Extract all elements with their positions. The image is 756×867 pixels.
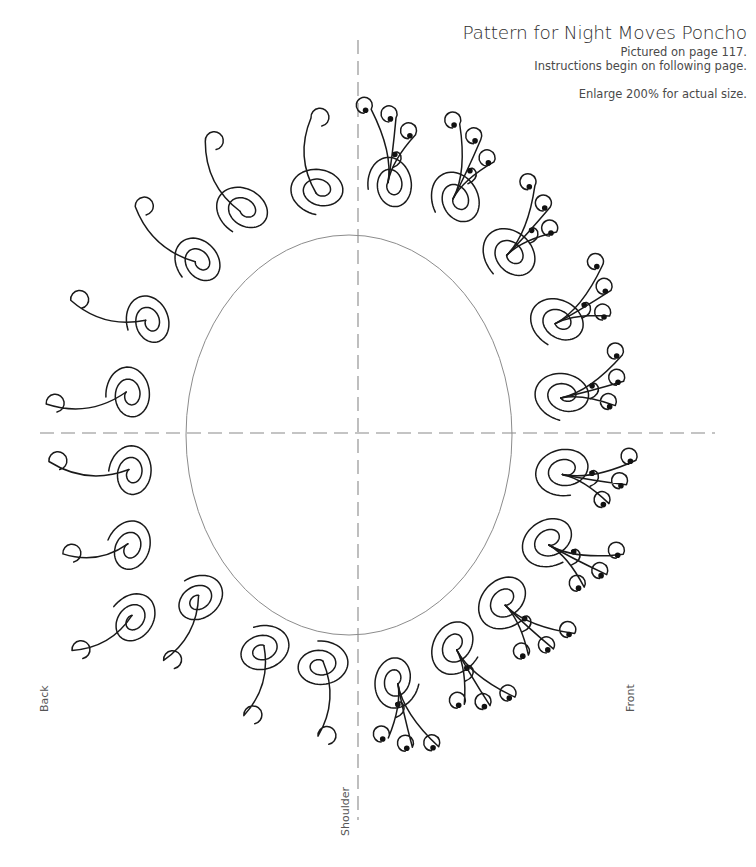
plume-stroke	[505, 605, 529, 659]
swirl-spiral	[291, 169, 343, 214]
swirl-spiral	[432, 172, 480, 221]
curl-dot	[628, 458, 634, 464]
back-swirl	[46, 367, 149, 417]
swirl-tail	[71, 290, 146, 322]
back-swirl	[49, 446, 151, 495]
curl-dot	[472, 138, 478, 144]
back-swirl	[241, 626, 289, 724]
center-guide-lines	[40, 40, 715, 820]
front-plume-swirl	[432, 622, 516, 710]
swirl-tail	[135, 197, 195, 262]
back-swirl	[164, 575, 223, 668]
back-swirl	[205, 132, 267, 232]
curl-dot	[601, 314, 607, 320]
curl-dot	[542, 205, 548, 211]
swirl-tail	[205, 132, 240, 212]
curl-dot	[618, 483, 624, 489]
swirl-spiral	[536, 449, 588, 495]
instructions-note: Instructions begin on following page.	[462, 59, 747, 73]
plume-stroke	[356, 97, 389, 182]
curl-dot	[520, 653, 526, 659]
front-label: Front	[624, 684, 637, 712]
swirl-tail	[63, 544, 128, 562]
curl-dot	[380, 736, 386, 742]
curl-dot	[615, 379, 621, 385]
curl-dot	[456, 703, 462, 709]
front-plume-swirl	[523, 519, 625, 592]
front-plume-swirl	[536, 448, 637, 507]
front-plume-swirl	[356, 97, 416, 206]
poncho-pattern-diagram	[0, 0, 756, 867]
neckline-ellipse	[186, 235, 512, 635]
plume-stroke	[505, 605, 576, 637]
swirl-spiral	[109, 446, 151, 495]
curl-dot	[545, 647, 551, 653]
front-plume-swirl	[531, 254, 612, 345]
front-plume-swirl	[479, 577, 576, 659]
curl-dot	[482, 704, 488, 710]
swirl-tail	[46, 392, 126, 412]
swirl-spiral	[479, 577, 526, 629]
swirl-spiral	[114, 594, 155, 641]
front-plume-swirl	[535, 343, 625, 420]
back-swirl	[72, 594, 155, 659]
front-plume-motifs	[356, 97, 637, 751]
curl-dot	[603, 289, 609, 295]
back-swirl-motifs	[46, 108, 348, 744]
swirl-tail	[318, 661, 336, 744]
swirl-spiral	[523, 519, 572, 567]
curl-dot	[506, 695, 512, 701]
swirl-spiral	[375, 658, 419, 708]
pattern-title: Pattern for Night Moves Poncho	[462, 22, 747, 45]
curl-dot	[614, 353, 620, 359]
swirl-tail	[304, 108, 329, 193]
back-swirl	[71, 290, 169, 342]
swirl-spiral	[175, 238, 220, 280]
front-plume-swirl	[373, 658, 439, 751]
swirl-spiral	[531, 299, 583, 345]
plume-stroke	[373, 684, 398, 742]
back-swirl	[291, 108, 343, 214]
curl-dot	[407, 133, 413, 139]
back-swirl	[135, 197, 220, 280]
enlarge-note: Enlarge 200% for actual size.	[462, 87, 747, 101]
curl-dot	[486, 160, 492, 166]
curl-dot	[388, 116, 394, 122]
pattern-header: Pattern for Night Moves Poncho Pictured …	[462, 22, 747, 101]
curl-dot	[615, 552, 621, 558]
curl-dot	[404, 745, 410, 751]
curl-dot	[527, 184, 533, 190]
swirl-spiral	[179, 575, 223, 619]
plume-stroke	[507, 220, 558, 255]
curl-dot	[430, 745, 436, 751]
swirl-spiral	[126, 296, 168, 342]
swirl-spiral	[108, 521, 150, 569]
swirl-tail	[72, 615, 132, 658]
curl-dot	[594, 264, 600, 270]
curl-dot	[451, 122, 457, 128]
curl-dot	[363, 107, 369, 113]
swirl-spiral	[106, 367, 149, 417]
back-swirl	[298, 641, 348, 744]
curl-dot	[576, 585, 582, 591]
pictured-note: Pictured on page 117.	[462, 45, 747, 59]
curl-dot	[566, 632, 572, 638]
curl-dot	[607, 404, 613, 410]
swirl-spiral	[217, 187, 268, 231]
front-plume-swirl	[432, 112, 496, 222]
plume-stroke	[457, 650, 516, 701]
back-label: Back	[38, 685, 51, 712]
curl-dot	[548, 230, 554, 236]
swirl-tail	[49, 452, 129, 476]
back-swirl	[63, 521, 150, 569]
curl-dot	[598, 573, 604, 579]
swirl-tail	[164, 595, 199, 668]
plume-stroke	[549, 542, 624, 558]
swirl-spiral	[368, 157, 412, 206]
shoulder-label: Shoulder	[339, 787, 352, 836]
front-plume-swirl	[483, 174, 557, 276]
curl-dot	[601, 502, 607, 508]
